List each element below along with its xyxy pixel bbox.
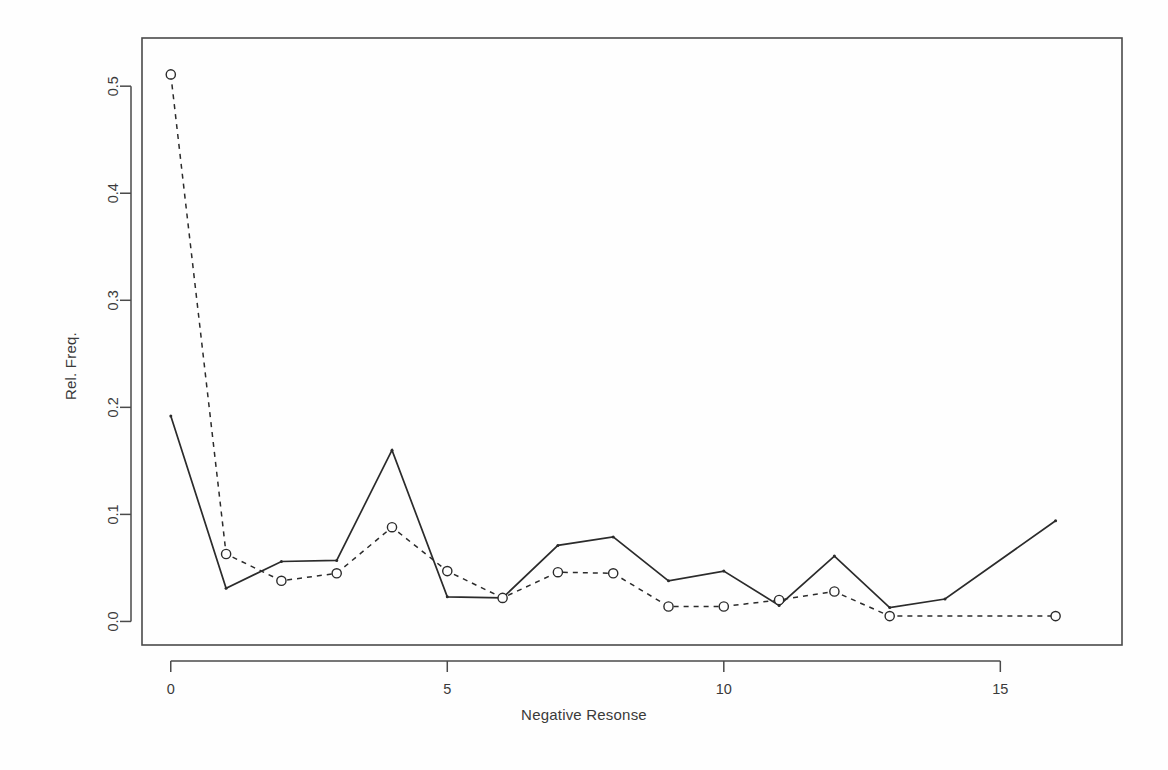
y-axis-tick-label: 0.5	[105, 76, 121, 96]
data-point-observed	[833, 555, 836, 558]
x-axis-tick-label: 5	[443, 681, 451, 697]
data-point-observed	[1054, 519, 1057, 522]
data-point-fitted	[387, 523, 396, 532]
data-point-observed	[667, 579, 670, 582]
y-axis-tick-label: 0.4	[105, 183, 121, 203]
data-point-observed	[169, 414, 172, 417]
x-axis-tick-label: 0	[167, 681, 175, 697]
data-point-fitted	[553, 568, 562, 577]
x-axis: 051015	[167, 661, 1009, 697]
data-point-fitted	[443, 567, 452, 576]
data-point-observed	[391, 449, 394, 452]
data-point-observed	[944, 598, 947, 601]
data-point-fitted	[885, 612, 894, 621]
data-point-observed	[335, 559, 338, 562]
x-axis-tick-label: 10	[716, 681, 732, 697]
y-axis-tick-label: 0.2	[105, 397, 121, 417]
data-point-fitted	[222, 549, 231, 558]
data-point-observed	[280, 560, 283, 563]
data-point-fitted	[1051, 612, 1060, 621]
data-point-fitted	[277, 576, 286, 585]
data-point-observed	[225, 587, 228, 590]
data-point-fitted	[719, 602, 728, 611]
data-point-observed	[556, 544, 559, 547]
data-point-observed	[888, 606, 891, 609]
figure-canvas: 051015 0.00.10.20.30.40.5 Negative Reson…	[0, 0, 1168, 770]
data-point-observed	[612, 535, 615, 538]
data-point-observed	[446, 595, 449, 598]
data-point-fitted	[166, 70, 175, 79]
y-axis: 0.00.10.20.30.40.5	[105, 76, 131, 631]
y-axis-tick-label: 0.1	[105, 504, 121, 524]
data-point-fitted	[664, 602, 673, 611]
y-axis-tick-label: 0.0	[105, 611, 121, 631]
data-point-fitted	[609, 569, 618, 578]
y-axis-title: Rel. Freq.	[62, 332, 79, 400]
data-point-fitted	[775, 595, 784, 604]
y-axis-tick-label: 0.3	[105, 290, 121, 310]
data-point-fitted	[830, 587, 839, 596]
line-chart-plot: 051015 0.00.10.20.30.40.5	[0, 0, 1168, 770]
data-point-fitted	[498, 593, 507, 602]
x-axis-title: Negative Resonse	[0, 706, 1168, 723]
data-point-fitted	[332, 569, 341, 578]
data-point-observed	[722, 570, 725, 573]
x-axis-tick-label: 15	[992, 681, 1008, 697]
series-line-observed	[171, 416, 1056, 608]
data-series-group	[166, 70, 1060, 621]
series-line-fitted	[171, 74, 1056, 616]
plot-frame	[142, 38, 1122, 645]
